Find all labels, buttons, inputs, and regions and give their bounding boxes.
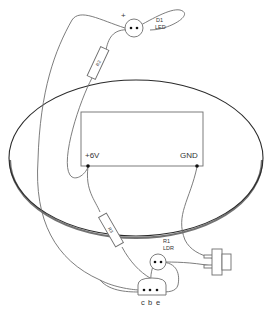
plus-6v-terminal	[86, 164, 90, 168]
circuit-svg: +6V GND + D1 LED R2 R3 R1 LDR	[0, 0, 272, 313]
battery-box: +6V GND	[81, 112, 203, 168]
gnd-label: GND	[180, 151, 198, 160]
pin-c-label: c	[141, 298, 145, 307]
ldr-designator: R1	[163, 238, 170, 244]
ldr-type-label: LDR	[163, 245, 174, 251]
resistor-r2: R2	[87, 47, 109, 80]
plus-6v-label: +6V	[85, 151, 100, 160]
pin-b-label: b	[148, 298, 152, 307]
transistor: c b e	[138, 278, 166, 307]
gnd-terminal	[195, 164, 199, 168]
push-switch	[204, 249, 231, 275]
led-type-label: LED	[155, 24, 166, 30]
resistor-r3: R3	[99, 213, 124, 247]
led-designator: D1	[156, 17, 163, 23]
led-polarity-mark: +	[121, 11, 126, 20]
pin-e-label: e	[156, 298, 160, 307]
circuit-diagram: +6V GND + D1 LED R2 R3 R1 LDR	[0, 0, 272, 313]
ldr-r1: R1 LDR	[150, 238, 174, 270]
